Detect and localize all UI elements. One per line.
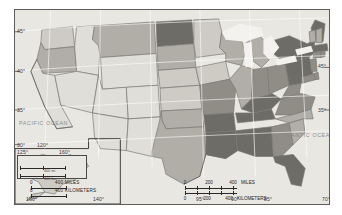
state-ct <box>313 52 321 58</box>
lon-label-bottom-95: 95° <box>196 197 204 202</box>
lon-label-bottom-90: 90° <box>231 197 239 202</box>
state-ar <box>204 113 236 133</box>
main-scale-mi-unit: MILES <box>241 180 255 186</box>
alaska-scale-zero-miles: 0 <box>30 181 33 186</box>
alaska-scale-km-label: 400 KILOMETERS <box>55 189 96 194</box>
state-mt <box>93 22 157 58</box>
lon-label-bottom-70: 70° <box>322 197 330 202</box>
state-mo <box>200 79 236 115</box>
state-ne <box>158 67 200 88</box>
lon-label-bottom-160: 160° <box>26 197 37 202</box>
state-al <box>253 127 273 157</box>
map-frame: PACIFIC OCEAN ATLANTIC OCEAN 45° 40° 35°… <box>14 9 330 205</box>
hawaii-scale-miles: 400 mi. <box>44 170 90 173</box>
ocean-label-atlantic: ATLANTIC OCEAN <box>280 133 330 138</box>
state-ok <box>161 109 204 129</box>
main-scale-axis-miles <box>185 186 237 190</box>
lon-label-bottom-140: 140° <box>93 197 104 202</box>
state-nh <box>316 28 322 43</box>
lat-label-30-left: 30° <box>17 143 25 148</box>
lat-label-45-right: 45° <box>318 64 326 69</box>
state-sd <box>157 44 196 71</box>
lat-label-40-left: 40° <box>17 69 25 74</box>
map-figure: PACIFIC OCEAN ATLANTIC OCEAN 45° 40° 35°… <box>0 0 342 215</box>
state-nd <box>156 20 194 47</box>
lat-label-35-left: 35° <box>17 108 25 113</box>
alaska-scale-zero-km: 0 <box>30 189 33 194</box>
state-wa <box>41 27 75 50</box>
state-de <box>314 72 319 79</box>
lat-label-45-left: 45° <box>17 29 25 34</box>
state-nj <box>310 59 317 72</box>
state-ks <box>160 85 202 111</box>
main-scale-km-0: 0 <box>184 196 187 202</box>
lat-label-35-right: 35° <box>318 108 326 113</box>
state-vt <box>309 30 316 43</box>
state-wy <box>100 54 158 90</box>
main-scale-km-200: 200 <box>203 196 211 202</box>
main-scale-km-unit: KILOMETERS <box>237 196 267 202</box>
state-in <box>251 67 269 99</box>
alaska-scale-miles-label: 400 MILES <box>55 181 80 186</box>
lon-label-120: 120° <box>37 143 48 148</box>
ocean-label-pacific: PACIFIC OCEAN <box>19 121 68 126</box>
lon-label-bottom-85: 85° <box>264 197 272 202</box>
main-scale-axis-km <box>185 191 237 195</box>
state-ri <box>321 51 325 58</box>
state-ma <box>313 44 328 53</box>
